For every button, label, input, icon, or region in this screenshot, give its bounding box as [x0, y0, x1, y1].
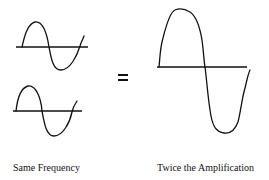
wave-1-curve — [22, 22, 84, 70]
twice-amplification-label: Twice the Amplification — [157, 162, 254, 174]
diagram-canvas — [0, 0, 269, 180]
interference-diagram: Same Frequency Twice the Amplification — [0, 0, 269, 180]
equals-sign — [118, 74, 128, 81]
same-frequency-label: Same Frequency — [13, 162, 80, 174]
result-wave — [157, 9, 250, 133]
input-wave-1 — [16, 22, 88, 70]
result-wave-curve — [159, 9, 250, 133]
input-wave-2 — [13, 86, 82, 136]
